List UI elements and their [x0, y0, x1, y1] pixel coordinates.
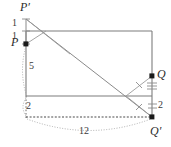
- point-dot-Q: [149, 73, 154, 78]
- measure-baseline: 12: [79, 126, 89, 136]
- measure-left-drop: 2: [26, 101, 31, 111]
- measure-left-side: 5: [29, 61, 34, 71]
- label-q: Q: [157, 68, 166, 80]
- arc-bottom-12: [27, 119, 151, 131]
- measure-top-lower: 1: [12, 31, 17, 41]
- label-p-prime: P′: [20, 1, 30, 13]
- measure-right-drop: 2: [158, 100, 163, 110]
- point-dot-Qprime: [149, 114, 154, 119]
- geometry-figure: P′ P Q Q′ 1 1 5 2 2 12: [0, 0, 171, 147]
- label-q-prime: Q′: [150, 125, 161, 137]
- measure-top-upper: 1: [12, 18, 17, 28]
- segment-p-incidence: [26, 31, 46, 44]
- segment-pprime-fan: [26, 19, 70, 54]
- point-dot-P: [23, 41, 28, 46]
